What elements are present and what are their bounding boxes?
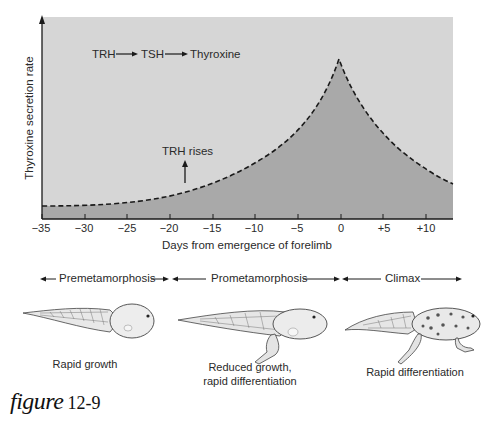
thyroxine-chart: −35 −30 −25 −20 −15 −10 −5 0 +5 +10 Days… — [0, 0, 494, 270]
tick-label: 0 — [338, 222, 344, 234]
caption-line-1: Reduced growth, — [190, 360, 310, 374]
tick-label: −25 — [118, 222, 137, 234]
caption-reduced-growth: Reduced growth, rapid differentiation — [190, 360, 310, 388]
figure-label: figure12-9 — [10, 388, 100, 415]
phase-premetamorphosis: Premetamorphosis — [59, 272, 156, 284]
left-arrowhead-icon — [342, 277, 348, 282]
figure-number: 12-9 — [67, 393, 100, 413]
pathway-trh: TRH — [92, 48, 116, 60]
caption-line-2: rapid differentiation — [190, 374, 310, 388]
x-axis-title: Days from emergence of forelimb — [162, 239, 332, 251]
phase-prometamorphosis: Prometamorphosis — [211, 272, 308, 284]
right-arrowhead-icon — [334, 277, 340, 282]
caption-rapid-differentiation: Rapid differentiation — [355, 365, 475, 379]
tick-label: +5 — [378, 222, 391, 234]
y-axis-title: Thyroxine secretion rate — [23, 56, 35, 179]
froglet-climax-illustration — [343, 298, 483, 370]
tick-label: +10 — [417, 222, 436, 234]
phase-climax: Climax — [385, 272, 420, 284]
pathway-thyroxine: Thyroxine — [190, 48, 241, 60]
left-arrowhead-icon — [40, 277, 46, 282]
right-arrowhead-icon — [163, 277, 169, 282]
tick-label: −5 — [291, 222, 304, 234]
pathway-tsh: TSH — [141, 48, 164, 60]
caption-rapid-growth: Rapid growth — [40, 357, 130, 371]
right-arrowhead-icon — [456, 277, 462, 282]
tick-label: −10 — [245, 222, 264, 234]
x-tick-labels: −35 −30 −25 −20 −15 −10 −5 0 +5 +10 — [32, 222, 436, 234]
tick-label: −30 — [75, 222, 94, 234]
trh-rises-label: TRH rises — [162, 145, 213, 157]
tick-label: −15 — [203, 222, 222, 234]
tick-label: −20 — [160, 222, 179, 234]
figure-word: figure — [10, 388, 63, 414]
tadpole-premetamorphosis-illustration — [20, 298, 155, 350]
left-arrowhead-icon — [172, 277, 178, 282]
tick-label: −35 — [32, 222, 51, 234]
